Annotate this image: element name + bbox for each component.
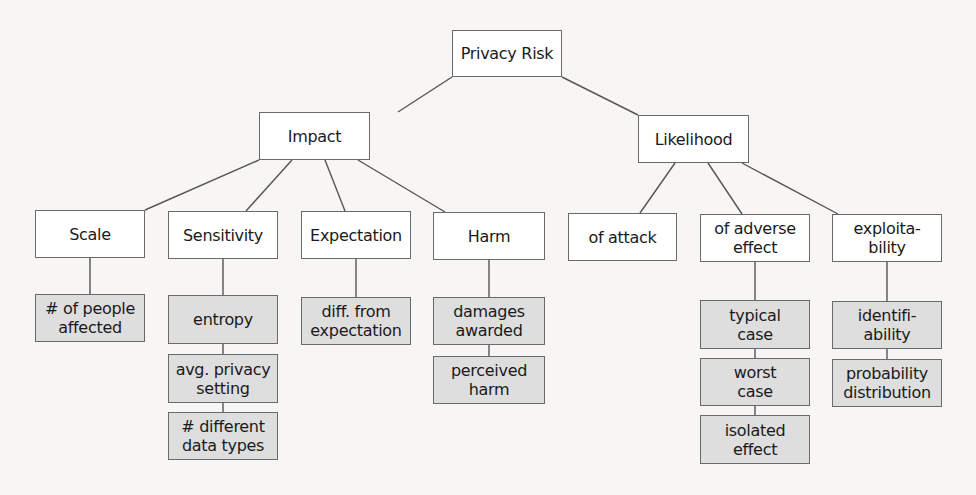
- node-of-attack: of attack: [568, 213, 677, 261]
- node-label: damages awarded: [453, 302, 525, 340]
- node-privacy-risk: Privacy Risk: [452, 30, 562, 77]
- node-isolated-effect: isolated effect: [700, 415, 810, 464]
- node-probability-distribution: probability distribution: [832, 359, 942, 407]
- edge-impact-expectation: [325, 160, 345, 211]
- node-label: diff. from expectation: [310, 302, 401, 340]
- node-num-people-affected: # of people affected: [35, 294, 145, 342]
- edge-root-likelihood: [562, 77, 638, 115]
- node-expectation: Expectation: [301, 211, 411, 259]
- node-label: perceived harm: [451, 361, 527, 399]
- node-label: exploita- bility: [853, 219, 920, 257]
- node-label: typical case: [729, 306, 780, 344]
- node-label: Sensitivity: [183, 226, 263, 245]
- edge-likelihood-attack: [640, 163, 675, 213]
- edge-impact-scale: [145, 160, 259, 210]
- node-damages-awarded: damages awarded: [433, 297, 545, 345]
- edge-impact-sensitivity: [246, 160, 292, 211]
- node-label: entropy: [193, 310, 253, 329]
- node-label: probability distribution: [843, 364, 931, 402]
- node-label: Harm: [468, 227, 511, 246]
- node-label: # of people affected: [45, 299, 135, 337]
- node-label: # different data types: [181, 417, 264, 455]
- node-label: Privacy Risk: [461, 44, 554, 63]
- node-label: Expectation: [310, 226, 402, 245]
- node-sensitivity: Sensitivity: [168, 211, 278, 259]
- node-label: isolated effect: [725, 421, 786, 459]
- node-worst-case: worst case: [700, 358, 810, 406]
- node-label: worst case: [734, 363, 777, 401]
- node-diff-from-expectation: diff. from expectation: [301, 297, 411, 345]
- node-label: identifi- ability: [858, 306, 916, 344]
- node-exploitability: exploita- bility: [832, 214, 942, 262]
- node-label: Likelihood: [655, 130, 733, 149]
- edge-impact-harm: [358, 160, 445, 212]
- node-likelihood: Likelihood: [638, 115, 749, 163]
- node-label: of attack: [588, 228, 656, 247]
- node-num-different-data-types: # different data types: [168, 412, 278, 460]
- node-harm: Harm: [433, 212, 545, 260]
- edge-likelihood-adverse: [708, 163, 742, 214]
- node-identifiability: identifi- ability: [832, 301, 942, 349]
- edge-root-impact: [398, 77, 452, 112]
- node-impact: Impact: [259, 112, 370, 160]
- node-perceived-harm: perceived harm: [433, 356, 545, 404]
- node-typical-case: typical case: [700, 300, 810, 349]
- node-label: Impact: [288, 127, 342, 146]
- node-label: of adverse effect: [714, 219, 796, 257]
- node-avg-privacy-setting: avg. privacy setting: [168, 354, 278, 403]
- node-scale: Scale: [35, 210, 145, 258]
- node-of-adverse-effect: of adverse effect: [700, 214, 810, 262]
- edge-likelihood-exploitability: [742, 163, 838, 214]
- node-entropy: entropy: [168, 295, 278, 344]
- node-label: Scale: [69, 225, 111, 244]
- node-label: avg. privacy setting: [176, 360, 271, 398]
